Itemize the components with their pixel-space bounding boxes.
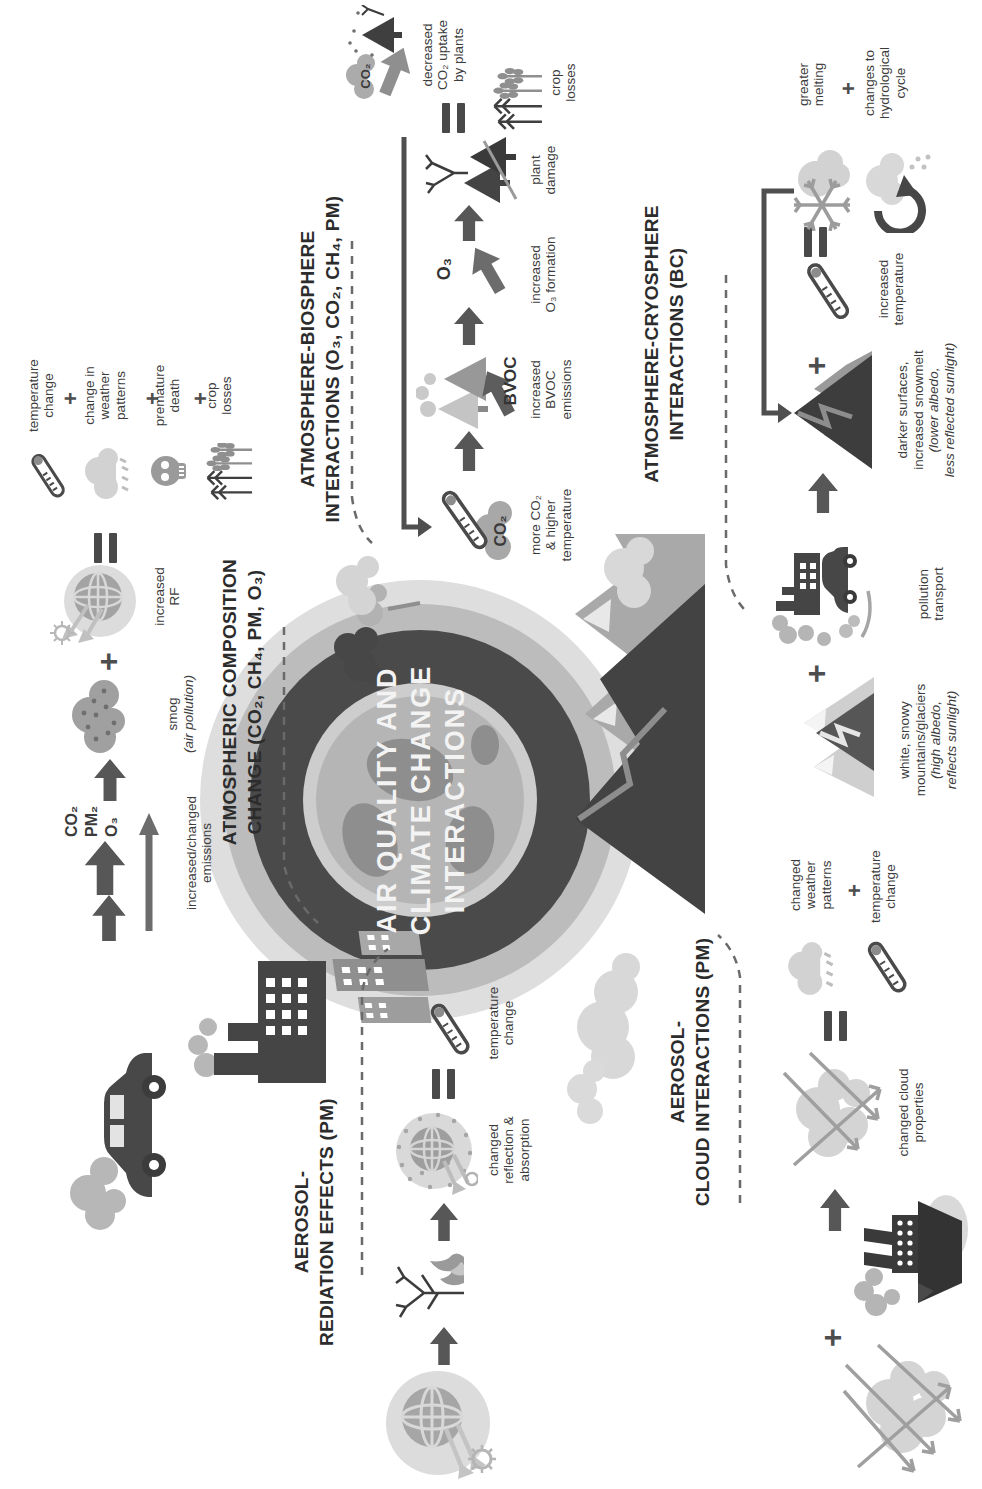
outcome-weather-label: change in weather patterns	[82, 348, 128, 443]
biosphere-feedback-line	[404, 137, 418, 527]
rotated-diagram: AIR QUALITY AND CLIMATE CHANGE INTERACTI…	[0, 0, 982, 1489]
thermometer-icon	[20, 445, 74, 503]
chain-arrow	[452, 205, 486, 241]
smog-label-note: (air pollution)	[181, 655, 196, 773]
hydrological-label: changes to hydrological cycle	[862, 29, 908, 137]
cloud-temp-label: temperature change	[868, 834, 899, 939]
smog-icon	[66, 671, 130, 761]
cloud-properties-label: changed cloud properties	[896, 1050, 927, 1175]
more-co2-label: more CO₂ & higher temperature	[528, 471, 574, 579]
car-icon	[96, 1047, 170, 1207]
rf-label: increased RF	[152, 554, 183, 639]
radiation-temp-label: temperature change	[486, 973, 517, 1073]
emissions-label: increased/changed emissions	[184, 773, 215, 933]
white-mountain-note: (high albedo, reflects sunlight)	[928, 655, 959, 825]
co2-cloud-label: CO₂	[492, 515, 509, 546]
figure-canvas: AIR QUALITY AND CLIMATE CHANGE INTERACTI…	[0, 0, 982, 1489]
uptake-cloud-label: CO₂	[358, 63, 373, 89]
equals-sign	[824, 1011, 847, 1041]
chain-arrow	[806, 473, 840, 513]
equals-sign	[442, 103, 465, 133]
equals-sign	[432, 1069, 455, 1099]
cryosphere-section-title: ATMOSPHERE-CRYOSPHERE INTERACTIONS (BC)	[640, 144, 689, 544]
wildfire-icon	[394, 1245, 472, 1323]
chain-arrow	[452, 431, 486, 471]
chain-arrow	[428, 1203, 460, 1241]
white-mountain-label: white, snowy mountains/glaciers (high al…	[882, 655, 974, 825]
aerosol-globe-icon	[392, 1109, 478, 1199]
emissions-big-arrow	[82, 841, 128, 895]
composition-section-title: ATMOSPHERIC COMPOSITION CHANGE (CO₂, CH₄…	[218, 537, 267, 867]
chain-arrow	[90, 895, 128, 941]
white-mountain-text: white, snowy mountains/glaciers	[897, 684, 927, 797]
plus-sign: +	[92, 652, 124, 671]
smog-label: smog (air pollution)	[150, 655, 212, 773]
outcome-temperature-label: temperature change	[26, 348, 57, 443]
plus-sign: +	[844, 884, 866, 897]
plus-sign: +	[800, 356, 832, 375]
sun-globe-icon	[380, 1371, 502, 1487]
equals-sign	[94, 533, 117, 563]
ship-icon	[850, 1193, 974, 1321]
outcome-death-label: premature death	[152, 348, 183, 443]
dark-mountain-text: darker surfaces, increased snowmelt	[895, 350, 925, 469]
rain-cloud-icon	[84, 445, 134, 505]
greater-melting-label: greater melting	[796, 42, 827, 127]
increased-temperature-label: increased temperature	[876, 239, 907, 339]
chain-arrow	[452, 307, 486, 345]
ozone-arrow-icon: O₃	[428, 243, 512, 303]
biosphere-crop-label: crop losses	[548, 40, 579, 125]
figure-title-line3: INTERACTIONS	[438, 540, 472, 1060]
white-mountain-icon	[786, 677, 876, 797]
skull-icon	[148, 449, 192, 493]
ozone-label: increased O₃ formation	[528, 222, 559, 327]
figure-title-line1: AIR QUALITY AND	[370, 540, 404, 1060]
emissions-thin-arrow	[136, 811, 162, 933]
figure-title-line2: CLIMATE CHANGE	[404, 540, 438, 1060]
pollution-transport-label: pollution transport	[916, 549, 947, 639]
dark-mountain-label: darker surfaces, increased snowmelt (low…	[880, 329, 972, 491]
plus-sign: +	[60, 392, 82, 405]
radiation-section-title: AEROSOL- REDIATION EFFECTS (PM)	[290, 1067, 339, 1377]
bvoc-label-text: BVOC	[501, 356, 520, 405]
plus-sign: +	[800, 664, 832, 683]
wheat-icon	[196, 443, 254, 503]
changed-clouds-icon	[782, 1045, 892, 1185]
cloud-decor-lowerleft-icon	[560, 1053, 614, 1131]
chain-arrow	[92, 759, 128, 801]
cloud-decor-right-icon	[596, 533, 662, 613]
co2-thermometer-icon: CO₂	[428, 475, 522, 567]
radiative-forcing-globe-icon	[48, 563, 148, 649]
plus-sign: +	[838, 82, 860, 95]
pollution-transport-icon	[770, 547, 878, 647]
reflection-label: changed reflection & absorption	[486, 1095, 532, 1205]
biosphere-section-title: ATMOSPHERE-BIOSPHERE INTERACTIONS (O₃, C…	[296, 164, 345, 554]
cloud-section-title: AEROSOL- CLOUD INTERACTIONS (PM)	[666, 917, 715, 1227]
rain-cloud-icon	[786, 939, 840, 1001]
thermometer-icon	[856, 933, 918, 999]
plus-sign: +	[816, 1328, 848, 1347]
dark-mountain-note: (lower albedo, less reflected sunlight)	[926, 329, 957, 491]
decreased-uptake-icon: CO₂	[344, 5, 416, 101]
hydrological-cycle-icon	[860, 147, 936, 233]
changed-weather-label: changed weather patterns	[788, 835, 834, 935]
figure-title: AIR QUALITY AND CLIMATE CHANGE INTERACTI…	[370, 540, 472, 1060]
equals-sign	[804, 227, 827, 257]
decreased-uptake-label: decreased CO₂ uptake by plants	[420, 5, 466, 105]
smog-label-text: smog	[165, 698, 180, 731]
dashed-cloud-line	[718, 935, 740, 1203]
chain-arrow	[818, 1189, 852, 1231]
thermometer-icon	[420, 995, 480, 1061]
cloud-radiation-icon	[842, 1341, 978, 1483]
snowmelt-icon	[786, 147, 866, 231]
dashed-biosphere-line	[352, 241, 372, 543]
chain-arrow	[428, 1327, 460, 1365]
ozone-label-text: O₃	[434, 258, 454, 280]
outcome-crop-label: crop losses	[204, 348, 235, 443]
bvoc-label: increased BVOC emissions	[528, 342, 574, 437]
wheat-icon	[482, 51, 544, 151]
pollutant-labels: CO₂ PM₂ O₃	[62, 806, 122, 837]
thermometer-icon	[796, 253, 860, 327]
bvoc-trees-icon: BVOC	[416, 349, 520, 431]
